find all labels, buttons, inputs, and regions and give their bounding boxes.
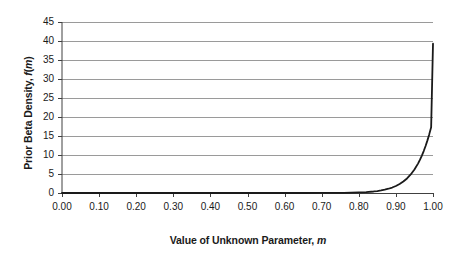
axis-ticks-group [58, 23, 434, 198]
plot-area [0, 0, 461, 257]
x-axis-tick-label: 1.00 [411, 202, 455, 212]
y-axis-tick-label: 20 [28, 112, 54, 122]
y-axis-tick-label: 45 [28, 17, 54, 27]
y-axis-tick-label: 30 [28, 74, 54, 84]
y-axis-tick-label: 0 [28, 188, 54, 198]
chart-container: Prior Beta Density, f(m) Value of Unknow… [0, 0, 461, 257]
y-axis-tick-label: 10 [28, 150, 54, 160]
gridlines-group [62, 23, 433, 194]
y-axis-tick-label: 15 [28, 131, 54, 141]
data-series-line [62, 44, 433, 193]
y-axis-tick-label: 5 [28, 169, 54, 179]
y-axis-tick-label: 25 [28, 93, 54, 103]
y-axis-tick-label: 40 [28, 36, 54, 46]
y-axis-tick-label: 35 [28, 55, 54, 65]
